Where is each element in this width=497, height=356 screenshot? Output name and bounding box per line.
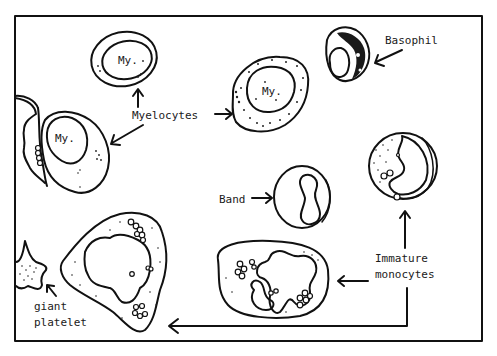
connector-line-to-bottom-left (169, 288, 407, 333)
basophil (326, 27, 369, 81)
arrow-to-giant-platelet (47, 285, 56, 296)
giant-platelet (16, 241, 46, 289)
arrow-to-basophil (375, 50, 402, 66)
giant-platelet-label-line1: giant (34, 300, 67, 313)
myelocyte-left: My. (42, 112, 110, 193)
immature-monocyte-bottom-left (61, 213, 166, 332)
my-label-top: My. (118, 54, 138, 67)
arrow-up-to-top-myelocyte (133, 89, 143, 107)
immature-monocytes-label-line1: Immature (375, 252, 428, 265)
immature-monocyte-right (369, 133, 437, 200)
myelocytes-label: Myelocytes (132, 109, 198, 122)
myelocyte-top: My. (86, 26, 162, 93)
arrow-left-to-monocyte-center (338, 276, 368, 286)
band-label: Band (219, 193, 246, 206)
arrow-down-left-to-myelocyte (111, 125, 143, 145)
giant-platelet-label-line2: platelet (34, 316, 87, 329)
basophil-label: Basophil (385, 34, 438, 47)
immature-monocyte-center (218, 241, 329, 318)
frame-border (15, 16, 482, 341)
arrow-right-to-myelocyte (215, 109, 232, 119)
arrow-up-to-monocyte-right (400, 211, 410, 248)
arrow-to-band (252, 193, 272, 203)
my-label-right: My. (262, 85, 282, 98)
my-label-left: My. (55, 132, 75, 145)
blood-cell-diagram: My. Myelocytes My. Basophil (0, 0, 497, 356)
band-neutrophil (274, 166, 330, 228)
myelocyte-right: My. (233, 57, 309, 132)
immature-monocytes-label-line2: monocytes (375, 268, 435, 281)
